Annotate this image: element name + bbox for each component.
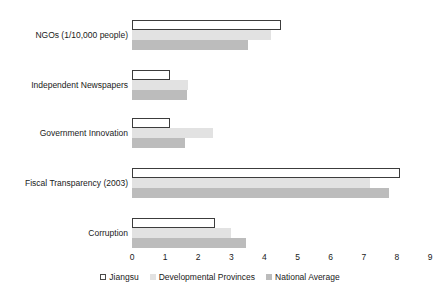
chart-legend: JiangsuDevelopmental ProvincesNational A…	[0, 272, 440, 282]
bar-group	[132, 70, 430, 100]
x-tick-label: 0	[122, 252, 142, 262]
bar-2	[132, 138, 185, 148]
bar-0	[132, 20, 281, 30]
bar-0	[132, 118, 170, 128]
x-tick-label: 3	[221, 252, 241, 262]
bar-group	[132, 118, 430, 148]
legend-swatch-icon	[266, 274, 272, 280]
bar-group	[132, 168, 430, 198]
x-axis: 0123456789	[132, 252, 430, 266]
bar-chart: NGOs (1/10,000 people)Independent Newspa…	[0, 0, 440, 297]
bar-2	[132, 238, 246, 248]
bar-2	[132, 40, 248, 50]
category-label: Corruption	[4, 228, 128, 238]
bar-1	[132, 128, 213, 138]
x-tick-label: 9	[420, 252, 440, 262]
x-tick-label: 5	[288, 252, 308, 262]
legend-swatch-icon	[100, 274, 106, 280]
x-tick-label: 6	[321, 252, 341, 262]
bar-group	[132, 20, 430, 50]
plot-area	[132, 12, 430, 250]
bar-0	[132, 218, 215, 228]
category-label: Fiscal Transparency (2003)	[4, 178, 128, 188]
legend-label: Developmental Provinces	[159, 272, 255, 282]
legend-item[interactable]: Jiangsu	[100, 272, 138, 282]
bar-2	[132, 188, 389, 198]
bar-1	[132, 80, 188, 90]
category-label: NGOs (1/10,000 people)	[4, 30, 128, 40]
x-tick-label: 2	[188, 252, 208, 262]
bar-1	[132, 228, 231, 238]
legend-swatch-icon	[150, 274, 156, 280]
category-label: Independent Newspapers	[4, 80, 128, 90]
bar-0	[132, 70, 170, 80]
legend-item[interactable]: Developmental Provinces	[150, 272, 255, 282]
x-tick-label: 4	[254, 252, 274, 262]
x-tick-label: 8	[387, 252, 407, 262]
bar-0	[132, 168, 400, 178]
category-label-axis: NGOs (1/10,000 people)Independent Newspa…	[0, 12, 128, 250]
bar-1	[132, 30, 271, 40]
bar-2	[132, 90, 187, 100]
x-tick-label: 7	[354, 252, 374, 262]
legend-item[interactable]: National Average	[266, 272, 340, 282]
bar-1	[132, 178, 370, 188]
category-label: Government Innovation	[4, 128, 128, 138]
x-tick-label: 1	[155, 252, 175, 262]
bar-group	[132, 218, 430, 248]
legend-label: Jiangsu	[109, 272, 138, 282]
legend-label: National Average	[275, 272, 340, 282]
